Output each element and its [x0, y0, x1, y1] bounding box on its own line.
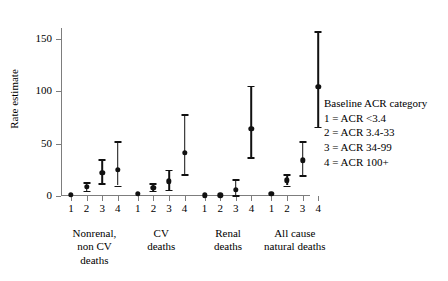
x-tick — [102, 196, 103, 201]
error-bar-cap-upper — [166, 170, 173, 172]
group-caption-line: non CV — [73, 240, 117, 253]
x-tick-label: 1 — [269, 203, 275, 214]
legend-entry: 3 = ACR 34-99 — [324, 140, 427, 155]
group-caption: All causenatural deaths — [264, 227, 325, 254]
x-tick-label: 3 — [233, 203, 239, 214]
y-axis-label: Rate estimate — [8, 69, 20, 129]
x-tick-label: 1 — [68, 203, 74, 214]
x-tick-label: 3 — [300, 203, 306, 214]
x-tick-label: 4 — [249, 203, 255, 214]
error-bar — [251, 86, 253, 157]
x-tick-label: 2 — [217, 203, 223, 214]
data-point — [151, 185, 156, 190]
group-caption-line: Renal — [214, 227, 242, 240]
x-tick — [251, 196, 252, 201]
y-tick-label: 50 — [41, 138, 52, 149]
legend-entry: 1 = ACR <3.4 — [324, 111, 427, 126]
legend: Baseline ACR category 1 = ACR <3.42 = AC… — [324, 96, 427, 170]
data-point — [84, 184, 89, 189]
x-tick-label: 1 — [135, 203, 141, 214]
data-point — [202, 193, 207, 198]
error-bar-cap-upper — [299, 141, 306, 143]
error-bar-cap-lower — [232, 195, 239, 197]
group-caption-line: All cause — [264, 227, 325, 240]
y-tick-label: 100 — [36, 85, 53, 96]
error-bar-cap-upper — [99, 159, 106, 161]
group-caption-line: deaths — [147, 240, 175, 253]
figure: Rate estimate 0501001501234123412341234 … — [0, 0, 448, 281]
error-bar-cap-upper — [284, 174, 291, 176]
group-caption: CVdeaths — [147, 227, 175, 254]
x-tick-label: 4 — [182, 203, 188, 214]
error-bar-cap-lower — [150, 191, 157, 193]
group-caption-line: Nonrenal, — [73, 227, 117, 240]
data-point — [99, 170, 104, 175]
group-caption-line: deaths — [73, 254, 117, 267]
data-point — [182, 150, 187, 155]
error-bar-cap-upper — [114, 141, 121, 143]
y-tick: 0 — [56, 196, 61, 197]
x-tick — [87, 196, 88, 201]
x-tick — [185, 196, 186, 201]
legend-title: Baseline ACR category — [324, 96, 427, 111]
x-tick-label: 4 — [315, 203, 321, 214]
y-tick: 100 — [56, 91, 61, 92]
group-caption: Nonrenal,non CVdeaths — [73, 227, 117, 267]
legend-entry: 4 = ACR 100+ — [324, 155, 427, 170]
x-tick — [153, 196, 154, 201]
x-tick-label: 2 — [284, 203, 290, 214]
plot-area: 0501001501234123412341234 — [61, 28, 310, 196]
error-bar-cap-lower — [299, 175, 306, 177]
y-tick-label: 0 — [47, 190, 53, 201]
data-point — [300, 158, 305, 163]
error-bar-cap-lower — [83, 191, 90, 193]
x-tick — [318, 196, 319, 201]
y-tick: 150 — [56, 39, 61, 40]
data-point — [135, 191, 140, 196]
legend-entries: 1 = ACR <3.42 = ACR 3.4-333 = ACR 34-994… — [324, 111, 427, 170]
error-bar — [317, 31, 319, 127]
error-bar-cap-lower — [114, 186, 121, 188]
error-bar-cap-lower — [315, 127, 322, 129]
data-point — [217, 193, 222, 198]
x-tick — [118, 196, 119, 201]
x-tick — [287, 196, 288, 201]
data-point — [115, 167, 120, 172]
data-point — [284, 178, 289, 183]
x-tick-label: 4 — [115, 203, 121, 214]
error-bar-cap-upper — [248, 86, 255, 88]
error-bar-cap-upper — [315, 31, 322, 33]
error-bar — [184, 114, 186, 174]
error-bar-cap-lower — [166, 190, 173, 192]
data-point — [315, 84, 320, 89]
x-tick — [303, 196, 304, 201]
x-tick — [138, 196, 139, 201]
group-caption-line: deaths — [214, 240, 242, 253]
data-point — [269, 191, 274, 196]
error-bar-cap-lower — [99, 183, 106, 185]
error-bar-cap-lower — [284, 186, 291, 188]
error-bar-cap-upper — [232, 179, 239, 181]
y-tick: 50 — [56, 144, 61, 145]
x-tick-label: 3 — [166, 203, 172, 214]
data-point — [233, 187, 238, 192]
group-caption-line: CV — [147, 227, 175, 240]
x-tick-label: 3 — [99, 203, 105, 214]
x-tick-label: 1 — [202, 203, 208, 214]
y-tick-label: 150 — [36, 33, 53, 44]
data-point — [166, 179, 171, 184]
x-tick-label: 2 — [84, 203, 90, 214]
data-point — [249, 126, 254, 131]
x-tick-label: 2 — [151, 203, 157, 214]
x-tick — [236, 196, 237, 201]
data-point — [68, 192, 73, 197]
x-tick — [271, 196, 272, 201]
legend-entry: 2 = ACR 3.4-33 — [324, 125, 427, 140]
error-bar-cap-lower — [248, 157, 255, 159]
error-bar — [117, 141, 119, 185]
group-caption-line: natural deaths — [264, 240, 325, 253]
x-tick — [169, 196, 170, 201]
group-caption: Renaldeaths — [214, 227, 242, 254]
error-bar-cap-upper — [181, 114, 188, 116]
error-bar-cap-lower — [181, 174, 188, 176]
